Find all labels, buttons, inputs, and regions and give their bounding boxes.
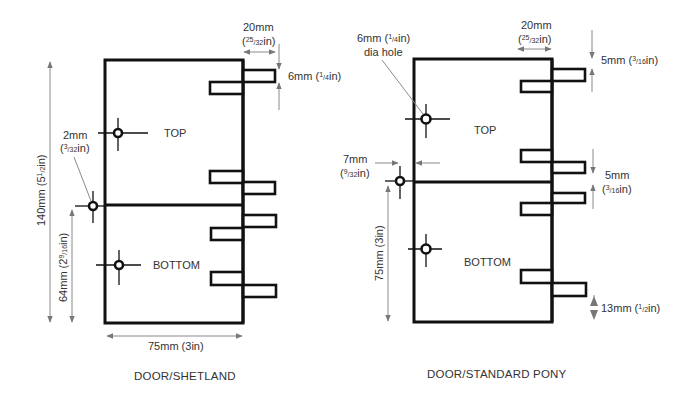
- shetland-hole-leader: [74, 157, 91, 201]
- pony-mid-gap-mm: 5mm: [605, 169, 629, 181]
- pony-hole-divider: [385, 166, 414, 199]
- pony-mid-gap-in: (3/16in): [602, 183, 632, 195]
- shetland-bottom-label: BOTTOM: [153, 259, 200, 271]
- standard-pony-diagram: TOP BOTTOM 6mm (1/4in) dia hole 20mm (25…: [340, 19, 660, 380]
- shetland-tab-length-mm: 20mm: [243, 21, 274, 33]
- pony-bottom-gap-label: 13mm (1/2in): [601, 302, 660, 314]
- pony-hole-note-line2: dia hole: [364, 46, 403, 58]
- pony-hole-offset-in: (9/32in): [340, 167, 370, 179]
- pony-hole-top: [405, 104, 450, 138]
- pony-bottom-gap-arrow-up: [590, 296, 598, 306]
- pony-bottom-gap-arrow-down: [590, 310, 598, 320]
- shetland-hole-height-label: 64mm (29/16in): [57, 233, 69, 302]
- shetland-hole-divider: [75, 191, 105, 223]
- pony-hole-note-line1: 6mm (1/4in): [357, 32, 410, 44]
- shetland-tab-length-in: (25/32in): [242, 35, 275, 47]
- shetland-width-label: 75mm (3in): [148, 340, 204, 352]
- pony-height-label: 75mm (3in): [373, 225, 385, 281]
- pony-tabs: [521, 59, 586, 322]
- shetland-caption: DOOR/SHETLAND: [134, 370, 236, 382]
- pony-bottom-label: BOTTOM: [464, 256, 511, 268]
- shetland-hole-dia-in: (3/32in): [60, 142, 90, 154]
- shetland-top-label: TOP: [164, 127, 186, 139]
- shetland-diagram: TOP BOTTOM 20mm (25/32in) 6mm (1/4in) 2m…: [35, 21, 341, 382]
- shetland-total-height-label: 140mm (51/2in): [35, 154, 47, 226]
- door-template-diagrams: TOP BOTTOM 20mm (25/32in) 6mm (1/4in) 2m…: [0, 0, 689, 407]
- pony-tab-length-mm: 20mm: [521, 19, 552, 31]
- pony-caption: DOOR/STANDARD PONY: [427, 368, 567, 380]
- pony-top-label: TOP: [474, 124, 496, 136]
- shetland-tab-height-label: 6mm (1/4in): [288, 70, 341, 82]
- pony-tab-length-in: (25/32in): [518, 33, 551, 45]
- pony-hole-leader: [382, 60, 423, 114]
- shetland-hole-bottom: [96, 250, 141, 285]
- pony-top-gap-label: 5mm (3/16in): [601, 54, 658, 66]
- shetland-tabs: [210, 60, 276, 323]
- shetland-hole-dia-mm: 2mm: [63, 129, 87, 141]
- pony-hole-offset-mm: 7mm: [343, 153, 367, 165]
